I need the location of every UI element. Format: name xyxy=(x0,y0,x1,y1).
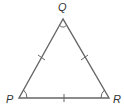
angle-arc-r xyxy=(101,90,105,98)
angle-arc-p xyxy=(24,90,28,98)
angle-arc-q xyxy=(60,25,67,27)
vertex-label-r: R xyxy=(113,93,121,105)
vertex-label-p: P xyxy=(6,93,14,105)
tick-side-pq xyxy=(38,55,45,60)
vertex-label-q: Q xyxy=(58,1,67,13)
triangle-diagram: Q P R xyxy=(0,0,124,109)
triangle-pqr xyxy=(19,19,109,98)
